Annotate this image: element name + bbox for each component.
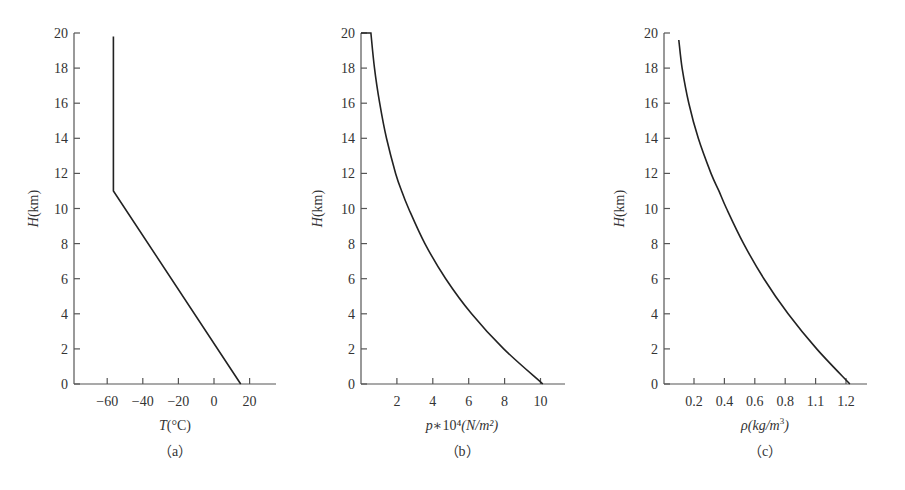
x-tick-label: 2: [393, 394, 400, 409]
x-tick-label: 0.2: [685, 394, 703, 409]
panel-b-x-axis-title: p∗10⁴(N/m²): [425, 418, 499, 434]
y-tick-label: 12: [54, 166, 68, 181]
panel-b-caption: （b）: [445, 444, 480, 459]
x-tick-label: −20: [167, 394, 189, 409]
x-tick-label: 0.4: [716, 394, 734, 409]
x-tick-label: 0.8: [776, 394, 794, 409]
y-tick-label: 8: [651, 237, 658, 252]
y-tick-label: 10: [644, 202, 658, 217]
y-tick-label: 6: [348, 272, 355, 287]
y-title-unit: (km): [310, 189, 326, 217]
y-tick-label: 2: [61, 342, 68, 357]
panel-c-x-axis-title: ρ(kg/m3): [740, 416, 789, 434]
y-tick-label: 8: [348, 237, 355, 252]
panel-b-pressure-curve: [361, 33, 543, 384]
y-tick-label: 16: [341, 96, 355, 111]
y-title-unit: (km): [26, 189, 42, 217]
x-tick-label: −60: [96, 394, 118, 409]
y-tick-label: 18: [644, 61, 658, 76]
y-tick-label: 16: [644, 96, 658, 111]
y-tick-label: 12: [341, 166, 355, 181]
panel-a-x-axis-title: T(°C): [159, 418, 191, 434]
x-tick-label: 0: [211, 394, 218, 409]
y-tick-label: 10: [54, 202, 68, 217]
x-tick-label: 8: [501, 394, 508, 409]
panel-c-caption: （c）: [748, 444, 782, 459]
figure: 02468101214161820 −60−40−20020 H(km) T(°…: [0, 0, 905, 490]
x-tick-label: 1.1: [807, 394, 825, 409]
y-tick-label: 14: [341, 131, 355, 146]
y-tick-label: 10: [341, 202, 355, 217]
panel-a-temperature-curve: [113, 37, 240, 385]
y-tick-label: 4: [61, 307, 68, 322]
y-tick-label: 4: [651, 307, 658, 322]
y-tick-label: 0: [651, 377, 658, 392]
x-tick-label: 6: [465, 394, 472, 409]
y-tick-label: 2: [651, 342, 658, 357]
panel-a-temperature: 02468101214161820 −60−40−20020 H(km) T(°…: [26, 26, 276, 459]
panel-a-y-axis-title: H(km): [26, 189, 42, 228]
y-tick-label: 2: [348, 342, 355, 357]
panel-c-density: 02468101214161820 0.20.40.60.81.11.2 H(k…: [612, 26, 867, 459]
panel-c-x-axis: 0.20.40.60.81.11.2: [664, 378, 867, 409]
x-tick-label: 10: [534, 394, 548, 409]
panel-c-density-curve: [679, 40, 850, 384]
panel-b-y-axis-title: H(km): [310, 189, 326, 228]
y-tick-label: 18: [54, 61, 68, 76]
panel-a-y-axis: 02468101214161820: [54, 26, 80, 392]
y-tick-label: 12: [644, 166, 658, 181]
y-tick-label: 20: [54, 26, 68, 41]
y-tick-label: 4: [348, 307, 355, 322]
panel-b-y-axis: 02468101214161820: [341, 26, 367, 392]
x-tick-label: −40: [132, 394, 154, 409]
y-tick-label: 20: [341, 26, 355, 41]
panel-a-caption: （a）: [158, 444, 192, 459]
panel-b-x-axis: 246810: [361, 378, 565, 409]
y-tick-label: 8: [61, 237, 68, 252]
panel-c-y-axis-title: H(km): [612, 189, 628, 228]
y-tick-label: 14: [54, 131, 68, 146]
x-tick-label: 4: [429, 394, 436, 409]
x-tick-label: 1.2: [837, 394, 855, 409]
y-tick-label: 20: [644, 26, 658, 41]
y-tick-label: 16: [54, 96, 68, 111]
y-title-unit: (km): [612, 189, 628, 217]
panel-a-x-axis: −60−40−20020: [74, 378, 276, 409]
panel-c-y-axis: 02468101214161820: [644, 26, 670, 392]
y-tick-label: 18: [341, 61, 355, 76]
x-tick-label: 20: [243, 394, 257, 409]
x-tick-label: 0.6: [746, 394, 764, 409]
y-tick-label: 0: [348, 377, 355, 392]
panel-b-pressure: 02468101214161820 246810 H(km) p∗10⁴(N/m…: [310, 26, 565, 459]
y-tick-label: 6: [651, 272, 658, 287]
y-tick-label: 14: [644, 131, 658, 146]
y-tick-label: 6: [61, 272, 68, 287]
y-tick-label: 0: [61, 377, 68, 392]
